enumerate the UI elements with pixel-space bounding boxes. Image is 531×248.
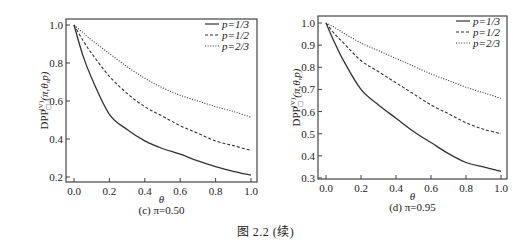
- x-tick-label: 0.2: [354, 182, 368, 194]
- panel-caption: (d) π=0.95: [389, 201, 436, 214]
- legend-label: p=2/3: [472, 37, 500, 49]
- figure-caption: 图 2.2 (续): [0, 222, 531, 240]
- y-axis-label-text: DPP□(V)(π,θ,p): [289, 68, 305, 126]
- y-tick-label: 0.6: [301, 106, 315, 118]
- y-tick-label: 0.3: [301, 172, 315, 184]
- x-tick-label: 0.6: [424, 182, 438, 194]
- chart-panel-d: 0.00.20.40.60.81.00.30.40.50.60.70.80.91…: [0, 0, 531, 248]
- y-tick-label: 0.7: [301, 83, 315, 95]
- y-tick-label: 0.4: [301, 150, 315, 162]
- y-axis-label: DPP□(V)(π,θ,p): [289, 68, 305, 126]
- y-tick-label: 0.9: [301, 39, 315, 51]
- x-tick-label: 0.8: [459, 182, 473, 194]
- y-tick-label: 0.8: [301, 61, 315, 73]
- x-tick-label: 0.0: [319, 182, 333, 194]
- y-tick-label: 1.0: [301, 17, 315, 29]
- x-tick-label: 0.4: [389, 182, 403, 194]
- x-tick-label: 1.0: [494, 182, 508, 194]
- figure: 0.00.20.40.60.81.00.20.40.60.81.0θ(c) π=…: [0, 0, 531, 248]
- y-tick-label: 0.5: [301, 128, 315, 140]
